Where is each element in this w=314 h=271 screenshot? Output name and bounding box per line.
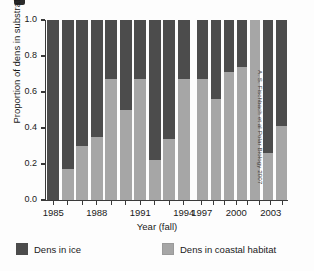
x-tick-label: 2000 [220,207,252,218]
x-axis-title: Year (fall) [0,221,314,232]
legend-swatch-icon-ice [16,243,28,255]
x-tick-label: 1991 [124,207,156,218]
bar-segment-dens-in-coastal-habitat [197,79,207,200]
bar-column [162,20,177,200]
y-tick-label: 0.2 [11,159,37,168]
bar-segment-dens-in-ice [237,20,247,67]
bar-column [177,20,192,200]
bar-column [46,20,61,200]
y-tick-label: 0.0 [11,195,37,204]
bar-segment-dens-in-ice [276,20,286,126]
bar-segment-dens-in-ice [134,20,146,79]
bar-segment-dens-in-ice [263,20,273,153]
bar-column [75,20,90,200]
x-tick-mark [236,201,237,205]
x-tick-mark [67,201,68,205]
bar-series-right [196,20,288,200]
bar-segment-dens-in-ice [178,20,190,79]
bar-segment-dens-in-ice [163,20,175,139]
bar-segment-dens-in-coastal-habitat [62,169,74,200]
x-tick-mark [125,201,126,205]
bar-segment-dens-in-coastal-habitat [178,79,190,200]
bar-segment-dens-in-coastal-habitat [163,139,175,200]
x-tick-mark [154,201,155,205]
y-tick-label: 0.4 [11,123,37,132]
bar-segment-dens-in-coastal-habitat [237,67,247,200]
x-tick-mark [169,201,170,205]
x-tick-label: 1997 [186,207,218,218]
bar-segment-dens-in-coastal-habitat [224,72,234,200]
legend-label-coastal: Dens in coastal habitat [180,244,276,255]
x-tick-mark [201,201,202,205]
bar-segment-dens-in-ice [105,20,117,79]
x-tick-mark [53,201,54,205]
x-tick-mark [82,201,83,205]
bar-column [133,20,148,200]
bar-series-left [46,20,191,200]
bar-segment-dens-in-ice [91,20,103,137]
bar-segment-dens-in-coastal-habitat [211,99,221,200]
bar-column [222,20,235,200]
y-tick-mark [41,19,45,20]
bar-column [196,20,209,200]
bar-segment-dens-in-coastal-habitat [263,153,273,200]
x-tick-mark [140,201,141,205]
bar-segment-dens-in-ice [76,20,88,146]
bar-segment-dens-in-ice [62,20,74,169]
bar-segment-dens-in-coastal-habitat [276,126,286,200]
x-tick-mark [213,201,214,205]
bar-segment-dens-in-ice [149,20,161,160]
bar-column [235,20,248,200]
x-tick-mark [224,201,225,205]
legend-label-ice: Dens in ice [34,244,81,255]
bar-segment-dens-in-coastal-habitat [149,160,161,200]
x-tick-label: 1985 [37,207,69,218]
y-tick-mark [41,91,45,92]
chart-legend: Dens in ice Dens in coastal habitat [0,243,314,263]
x-tick-mark [270,201,271,205]
bar-column [119,20,134,200]
figure-chart: 1.00.80.60.40.20.0 Proportion of dens in… [0,0,314,271]
legend-item-dens-in-ice: Dens in ice [16,243,81,255]
bar-segment-dens-in-ice [120,20,132,110]
x-tick-mark [96,201,97,205]
bar-segment-dens-in-ice [224,20,234,72]
x-tick-mark [282,201,283,205]
bar-segment-dens-in-ice [47,20,59,200]
bar-column [275,20,288,200]
bar-column [61,20,76,200]
bar-segment-dens-in-coastal-habitat [91,137,103,200]
bar-segment-dens-in-ice [211,20,221,99]
plot-area-left-group [46,20,191,200]
bar-segment-dens-in-ice [197,20,207,79]
y-axis-title: Proportion of dens in substrate [11,4,22,124]
bar-segment-dens-in-coastal-habitat [76,146,88,200]
x-tick-mark [183,201,184,205]
x-tick-label: 2003 [255,207,287,218]
bar-column [209,20,222,200]
legend-item-dens-in-coastal-habitat: Dens in coastal habitat [162,243,276,255]
x-tick-mark [111,201,112,205]
figure-credit: A. S. Fischbach et al Polar Biology 2007 [257,70,264,180]
bar-segment-dens-in-coastal-habitat [134,79,146,200]
bar-segment-dens-in-coastal-habitat [105,79,117,200]
plot-area-right-group [196,20,288,200]
bar-column [104,20,119,200]
x-tick-mark [247,201,248,205]
legend-swatch-icon-coastal [162,243,174,255]
y-tick-mark [41,163,45,164]
bar-column [90,20,105,200]
y-tick-mark [41,127,45,128]
x-tick-mark [259,201,260,205]
bar-column [148,20,163,200]
x-tick-label: 1988 [81,207,113,218]
bar-segment-dens-in-coastal-habitat [120,110,132,200]
y-tick-mark [41,55,45,56]
